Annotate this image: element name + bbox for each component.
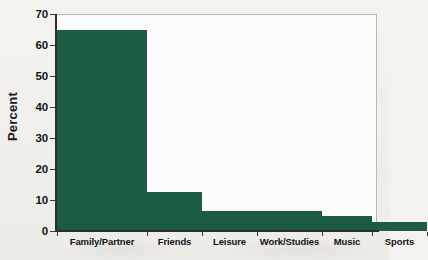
y-tick-label: 40 (36, 101, 48, 113)
x-tick-label: Music (334, 236, 360, 247)
bar (202, 211, 257, 231)
y-tick-label: 20 (36, 163, 48, 175)
y-axis-tick-labels: 010203040506070 (24, 0, 50, 240)
y-axis-line (55, 14, 57, 232)
x-tick-label: Friends (158, 236, 192, 247)
y-tick-label: 30 (36, 132, 48, 144)
bar (147, 192, 202, 231)
y-axis-title-label: Percent (6, 91, 21, 140)
bar (257, 211, 322, 231)
bar (57, 30, 147, 232)
x-tick-label: Sports (385, 236, 415, 247)
x-tick-label: Family/Partner (70, 236, 135, 247)
bars-container (57, 14, 377, 231)
y-tick-label: 70 (36, 8, 48, 20)
bar (372, 222, 427, 231)
y-tick-label: 60 (36, 39, 48, 51)
y-axis-title: Percent (2, 0, 24, 232)
bar (322, 216, 372, 231)
x-tick-label: Work/Studies (260, 236, 319, 247)
x-axis-tick-labels: Family/PartnerFriendsLeisureWork/Studies… (0, 236, 389, 258)
y-tick-label: 10 (36, 194, 48, 206)
x-tick-label: Leisure (213, 236, 246, 247)
y-tick-label: 50 (36, 70, 48, 82)
